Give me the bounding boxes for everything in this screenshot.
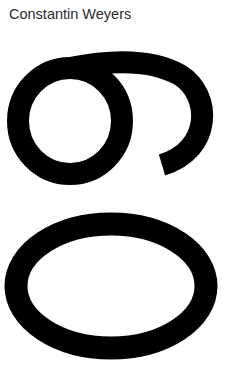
glyph-six [18, 62, 202, 174]
specimen-glyphs [0, 0, 237, 372]
glyph-zero [16, 224, 206, 348]
